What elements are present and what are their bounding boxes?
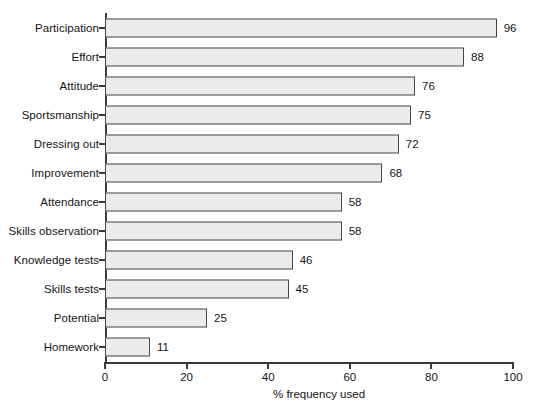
bars-layer: Participation96Effort88Attitude76Sportsm… (0, 0, 540, 411)
bar (105, 308, 207, 327)
category-label: Potential (54, 312, 99, 324)
bar-value-label: 58 (349, 196, 362, 208)
bar-value-label: 46 (300, 254, 313, 266)
bar (105, 47, 464, 66)
bar-value-label: 68 (389, 167, 402, 179)
category-label: Sportsmanship (22, 109, 99, 121)
category-label: Attitude (60, 80, 99, 92)
category-label: Knowledge tests (14, 254, 99, 266)
x-axis-tick (349, 362, 351, 369)
bar-row: Homework11 (0, 333, 540, 360)
x-axis-tick-label: 80 (425, 371, 438, 383)
bar-value-label: 96 (504, 22, 517, 34)
category-label: Attendance (40, 196, 99, 208)
bar-value-label: 58 (349, 225, 362, 237)
category-label: Skills tests (44, 283, 99, 295)
bar-row: Potential25 (0, 304, 540, 331)
bar (105, 250, 293, 269)
bar-row: Attendance58 (0, 188, 540, 215)
x-axis-tick (430, 362, 432, 369)
x-axis-tick (104, 362, 106, 369)
bar (105, 279, 289, 298)
bar (105, 337, 150, 356)
x-axis-title-text: % frequency used (273, 388, 365, 400)
bar (105, 221, 342, 240)
bar-value-label: 88 (471, 51, 484, 63)
x-axis-tick (186, 362, 188, 369)
category-label: Dressing out (34, 138, 99, 150)
bar-value-label: 45 (296, 283, 309, 295)
bar (105, 18, 497, 37)
bar-row: Attitude76 (0, 72, 540, 99)
x-axis-tick-label: 0 (102, 371, 108, 383)
bar-row: Participation96 (0, 14, 540, 41)
x-axis-tick (267, 362, 269, 369)
bar-row: Effort88 (0, 43, 540, 70)
category-label: Participation (35, 22, 99, 34)
bar-value-label: 72 (406, 138, 419, 150)
x-axis-title: % frequency used (0, 388, 540, 400)
x-axis-tick-label: 100 (503, 371, 522, 383)
bar-chart: Participation96Effort88Attitude76Sportsm… (0, 0, 540, 411)
bar-row: Sportsmanship75 (0, 101, 540, 128)
bar-row: Knowledge tests46 (0, 246, 540, 273)
bar (105, 192, 342, 211)
bar-value-label: 76 (422, 80, 435, 92)
bar-row: Dressing out72 (0, 130, 540, 157)
bar (105, 76, 415, 95)
bar (105, 134, 399, 153)
x-axis-tick-label: 60 (343, 371, 356, 383)
category-label: Improvement (31, 167, 99, 179)
bar-row: Skills tests45 (0, 275, 540, 302)
bar-value-label: 11 (157, 341, 169, 353)
category-label: Homework (44, 341, 99, 353)
category-label: Effort (71, 51, 99, 63)
bar-row: Skills observation58 (0, 217, 540, 244)
bar-value-label: 25 (214, 312, 227, 324)
x-axis-tick-label: 40 (262, 371, 275, 383)
x-axis-tick (512, 362, 514, 369)
bar (105, 105, 411, 124)
bar (105, 163, 382, 182)
bar-row: Improvement68 (0, 159, 540, 186)
category-label: Skills observation (9, 225, 99, 237)
bar-value-label: 75 (418, 109, 431, 121)
x-axis-tick-label: 20 (180, 371, 193, 383)
